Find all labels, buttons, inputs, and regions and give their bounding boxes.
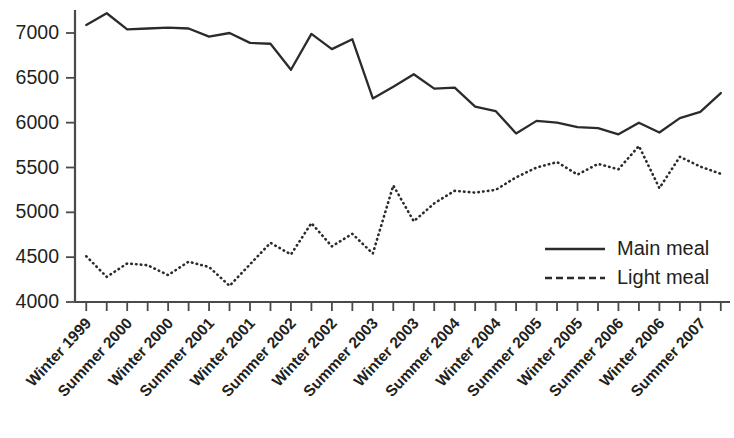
y-tick-label: 4000: [16, 290, 60, 312]
series-line-main-meal: [86, 13, 721, 134]
legend-label-main-meal: Main meal: [617, 237, 709, 259]
line-chart: 4000450050005500600065007000 Winter 1999…: [0, 0, 734, 438]
y-tick-label: 7000: [16, 21, 60, 43]
x-axis: Winter 1999Summer 2000Winter 2000Summer …: [23, 302, 730, 400]
chart-canvas: 4000450050005500600065007000 Winter 1999…: [0, 0, 734, 438]
x-tick-group: [86, 302, 721, 311]
y-tick-label: 6000: [16, 111, 60, 133]
x-tick-label: Summer 2007: [627, 314, 708, 399]
y-axis: 4000450050005500600065007000: [16, 10, 75, 312]
legend: Main meal Light meal: [545, 237, 709, 288]
y-tick-label: 6500: [16, 66, 60, 88]
y-tick-label: 5500: [16, 156, 60, 178]
legend-label-light-meal: Light meal: [617, 266, 709, 288]
y-tick-label: 5000: [16, 200, 60, 222]
y-tick-label: 4500: [16, 245, 60, 267]
y-tick-group: 4000450050005500600065007000: [16, 21, 75, 312]
series-line-light-meal: [86, 146, 721, 286]
x-tick-label-group: Winter 1999Summer 2000Winter 2000Summer …: [23, 314, 709, 400]
